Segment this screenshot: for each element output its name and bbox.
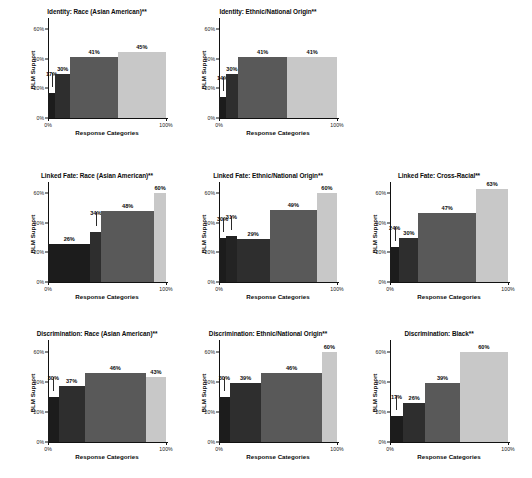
x-axis-label: Response Categories <box>219 453 337 460</box>
x-axis-label: Response Categories <box>390 453 508 460</box>
y-axis-tick-label: 20% <box>193 409 215 415</box>
bar <box>48 397 59 442</box>
bar-value-label: 30% <box>403 230 414 236</box>
x-axis-tick-label: 0% <box>44 286 52 292</box>
chart-panel: Discrimination: Ethnic/National Origin**… <box>193 330 343 464</box>
bar <box>90 232 101 282</box>
y-axis-tick-label: 0% <box>22 279 44 285</box>
label-leader-line <box>52 73 53 87</box>
x-axis-line <box>219 118 339 119</box>
bar <box>219 397 230 442</box>
x-axis-tick-label: 0% <box>44 446 52 452</box>
x-axis-tick-label: 0% <box>44 122 52 128</box>
x-axis-tick-mark <box>337 282 338 285</box>
bar <box>219 97 226 118</box>
y-axis-tick-label: 40% <box>364 220 386 226</box>
y-axis-tick-label: 60% <box>193 349 215 355</box>
bar <box>48 93 55 118</box>
y-axis-tick-label: 20% <box>22 409 44 415</box>
bar-value-label: 41% <box>307 49 318 55</box>
bar-value-label: 46% <box>110 365 121 371</box>
x-axis-tick-mark <box>337 118 338 121</box>
bar-value-label: 48% <box>122 203 133 209</box>
bar <box>425 383 459 442</box>
x-axis-tick-mark <box>337 442 338 445</box>
x-axis-label: Response Categories <box>48 129 166 136</box>
y-axis-tick-label: 0% <box>193 439 215 445</box>
bar <box>238 57 288 118</box>
y-axis-tick-label: 40% <box>193 379 215 385</box>
plot-area: 17%26%39%60% <box>390 344 508 442</box>
bar-value-label: 30% <box>226 66 237 72</box>
x-axis-tick-mark <box>48 282 49 285</box>
x-axis-tick-label: 100% <box>159 286 172 292</box>
bar-value-label: 43% <box>150 369 161 375</box>
x-axis-tick-label: 0% <box>215 122 223 128</box>
x-axis-tick-label: 0% <box>215 446 223 452</box>
plot-wrapper: BLM Support0%20%40%60%17%26%39%60%0%100%… <box>364 330 514 464</box>
x-axis-line <box>48 118 168 119</box>
bar-value-label: 49% <box>288 202 299 208</box>
y-axis-tick-label: 20% <box>193 249 215 255</box>
bar-value-label: 63% <box>486 181 497 187</box>
bar <box>226 236 237 282</box>
x-axis-label: Response Categories <box>48 293 166 300</box>
x-axis-tick-label: 100% <box>330 122 343 128</box>
x-axis-line <box>48 442 168 443</box>
bar <box>237 239 270 282</box>
bar <box>226 74 238 118</box>
x-axis-line <box>48 282 168 283</box>
y-axis-tick-label: 20% <box>364 249 386 255</box>
bar <box>403 403 425 442</box>
bar-value-label: 60% <box>478 344 489 350</box>
plot-area: 26%34%48%60% <box>48 186 166 282</box>
bar-value-label: 26% <box>409 395 420 401</box>
plot-wrapper: BLM Support0%20%40%60%30%31%29%49%60%0%1… <box>193 172 343 304</box>
plot-area: 30%31%29%49%60% <box>219 186 337 282</box>
plot-area: 30%37%46%43% <box>48 344 166 442</box>
bar-value-label: 29% <box>248 231 259 237</box>
label-leader-line <box>396 396 397 410</box>
plot-area: 24%30%47%63% <box>390 186 508 282</box>
y-axis-tick-label: 20% <box>22 85 44 91</box>
bar <box>118 52 166 118</box>
x-axis-tick-mark <box>390 282 391 285</box>
x-axis-tick-label: 0% <box>215 286 223 292</box>
bar <box>70 57 117 118</box>
bar-value-label: 60% <box>324 344 335 350</box>
chart-panel: Discrimination: Black**BLM Support0%20%4… <box>364 330 514 464</box>
bar <box>101 211 154 282</box>
bar-value-label: 60% <box>154 185 165 191</box>
y-axis-tick-label: 0% <box>22 115 44 121</box>
bar <box>154 193 166 282</box>
y-axis-tick-label: 60% <box>193 190 215 196</box>
bar <box>476 189 508 282</box>
x-axis-tick-label: 100% <box>501 286 514 292</box>
bar <box>230 383 262 442</box>
x-axis-tick-mark <box>390 442 391 445</box>
y-axis-tick-label: 60% <box>364 349 386 355</box>
bar-value-label: 37% <box>66 378 77 384</box>
bar-value-label: 30% <box>57 66 68 72</box>
plot-area: 30%39%46%60% <box>219 344 337 442</box>
label-leader-line <box>96 212 97 226</box>
bar <box>146 377 166 442</box>
plot-wrapper: BLM Support0%20%40%60%26%34%48%60%0%100%… <box>22 172 172 304</box>
bar-value-label: 41% <box>88 49 99 55</box>
y-axis-tick-label: 40% <box>22 379 44 385</box>
x-axis-tick-label: 100% <box>501 446 514 452</box>
label-leader-line <box>395 227 396 241</box>
x-axis-tick-mark <box>166 282 167 285</box>
label-leader-line <box>231 216 232 230</box>
bar-value-label: 60% <box>321 185 332 191</box>
bar <box>261 373 321 442</box>
y-axis-tick-label: 40% <box>364 379 386 385</box>
x-axis-tick-label: 100% <box>330 446 343 452</box>
x-axis-tick-mark <box>219 282 220 285</box>
plot-wrapper: BLM Support0%20%40%60%30%39%46%60%0%100%… <box>193 330 343 464</box>
plot-wrapper: BLM Support0%20%40%60%30%37%46%43%0%100%… <box>22 330 172 464</box>
x-axis-line <box>219 442 339 443</box>
bar <box>219 238 226 282</box>
x-axis-tick-label: 100% <box>159 122 172 128</box>
bar-value-label: 41% <box>257 49 268 55</box>
